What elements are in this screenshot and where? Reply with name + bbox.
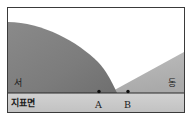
geologic-cross-section-figure: 서 동 지표면 A B xyxy=(0,0,192,121)
point-label-a: A xyxy=(95,100,102,110)
point-marker-a xyxy=(97,90,100,93)
direction-label-west: 서 xyxy=(14,79,22,88)
direction-label-east: 동 xyxy=(168,79,176,88)
point-marker-b xyxy=(126,90,129,93)
ground-surface-label: 지표면 xyxy=(11,99,35,108)
point-label-b: B xyxy=(124,100,131,110)
